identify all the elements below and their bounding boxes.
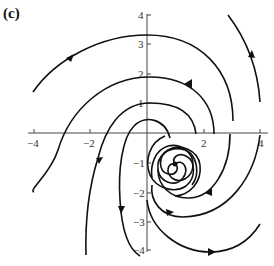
y-tick-label: 3 — [138, 38, 144, 50]
direction-arrows — [66, 50, 255, 256]
arrow-icon — [118, 206, 125, 214]
arrow-icon — [208, 248, 216, 256]
trajectory — [147, 200, 260, 252]
equilibrium-point — [173, 162, 178, 167]
trajectory — [228, 15, 260, 102]
trajectory — [86, 103, 196, 255]
y-tick-label: 4 — [138, 9, 144, 21]
arrow-icon — [66, 54, 74, 62]
trajectories — [33, 15, 260, 256]
x-tick-label: 2 — [201, 137, 207, 149]
x-tick-label: −2 — [83, 137, 95, 149]
y-tick-label: −4 — [133, 244, 145, 256]
spiral-arm — [148, 136, 194, 190]
y-tick-label: −2 — [133, 187, 145, 199]
trajectory — [33, 77, 214, 192]
y-tick-label: −1 — [133, 157, 145, 169]
y-tick-label: −3 — [133, 216, 145, 228]
phase-portrait-plot: −4 −2 2 4 4 3 2 1 −1 −2 −3 −4 — [0, 0, 274, 266]
x-tick-label: −4 — [27, 137, 39, 149]
